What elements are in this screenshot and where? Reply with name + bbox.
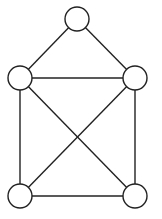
graph-diagram (0, 0, 162, 219)
node-top (65, 7, 89, 31)
node-left-mid (8, 66, 32, 90)
node-bottom-right (123, 184, 147, 208)
node-bottom-left (8, 184, 32, 208)
nodes (8, 7, 147, 208)
edges (20, 19, 135, 196)
node-right-mid (123, 66, 147, 90)
